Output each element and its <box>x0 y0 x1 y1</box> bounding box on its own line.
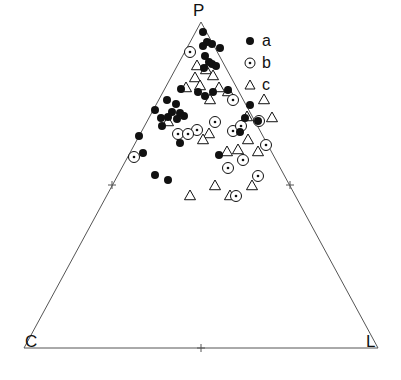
legend-item-a: a <box>240 30 310 52</box>
legend-label-b: b <box>262 55 271 71</box>
vertex-label-l: L <box>366 333 375 350</box>
ternary-plot-canvas <box>0 0 401 380</box>
ternary-diagram-figure: P C L a b c <box>0 0 401 380</box>
legend-label-c: c <box>262 77 270 93</box>
legend-label-a: a <box>262 33 271 49</box>
vertex-label-c: C <box>25 333 37 350</box>
triangle-outline <box>24 22 378 348</box>
axis-tick-marks <box>108 181 294 352</box>
legend: a b c <box>240 30 310 96</box>
legend-item-c: c <box>240 74 310 96</box>
legend-item-b: b <box>240 52 310 74</box>
open-triangle-icon <box>240 76 260 94</box>
dotted-circle-icon <box>240 54 260 72</box>
filled-circle-icon <box>240 32 260 50</box>
vertex-label-p: P <box>193 2 204 19</box>
